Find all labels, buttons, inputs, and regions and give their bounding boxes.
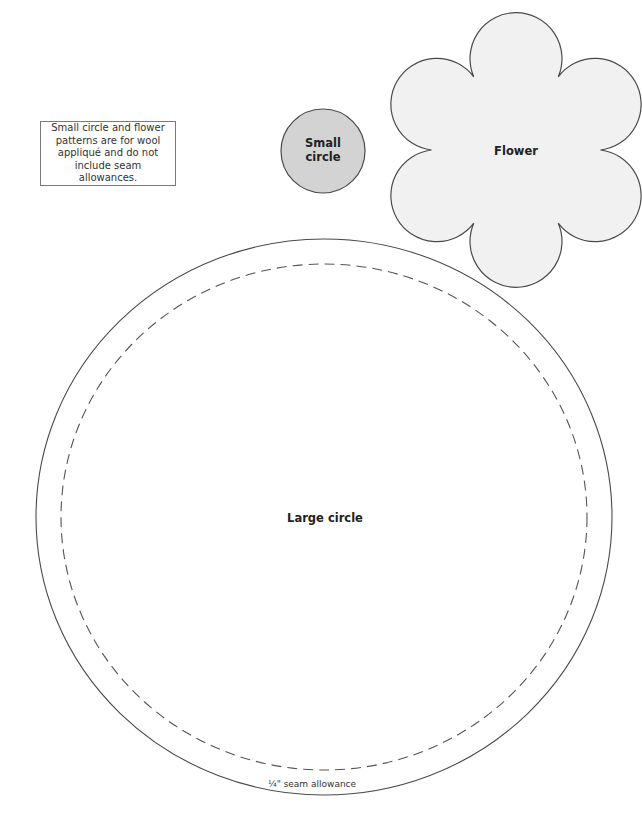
large-circle-pattern: Large circle ¼" seam allowance (36, 239, 612, 795)
flower-pattern: Flower (391, 13, 641, 288)
pattern-sheet: Small circle Flower Large circle ¼" seam… (0, 0, 642, 831)
small-circle-label-line1: Small (305, 136, 341, 150)
flower-label: Flower (494, 144, 538, 158)
small-circle-pattern: Small circle (281, 109, 365, 193)
seam-allowance-label: ¼" seam allowance (268, 779, 357, 789)
small-circle-label-line2: circle (306, 150, 341, 164)
large-circle-label: Large circle (287, 511, 363, 525)
